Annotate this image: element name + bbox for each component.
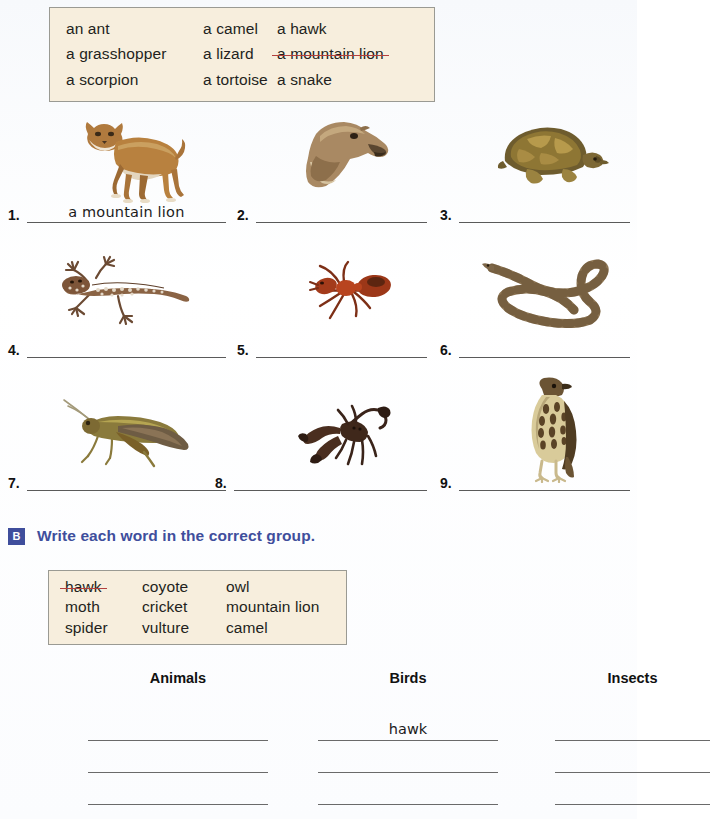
answer-line-5[interactable]: 5. <box>237 340 427 358</box>
word-bank-a-item: a grasshopper <box>66 42 203 68</box>
word-bank-a-item: a camel <box>203 16 277 42</box>
item-number: 1. <box>8 208 20 223</box>
picture-ant <box>300 258 396 328</box>
section-b-header: B Write each word in the correct group. <box>8 527 315 545</box>
answer-line-1[interactable]: 1. a mountain lion <box>8 205 226 223</box>
word-bank-a-item-struck: a mountain lion <box>277 42 434 68</box>
category-answer-line[interactable] <box>555 741 710 773</box>
item-number: 3. <box>440 208 452 223</box>
picture-snake <box>478 258 620 330</box>
word-bank-b: hawk coyote owl moth cricket mountain li… <box>48 570 347 645</box>
item-number: 5. <box>237 343 249 358</box>
category-answer-line[interactable] <box>88 741 268 773</box>
picture-lizard <box>52 252 192 330</box>
category-title: Insects <box>555 670 710 686</box>
category-answer-line[interactable] <box>318 741 498 773</box>
picture-camel <box>296 112 394 192</box>
category-answer-line[interactable] <box>88 709 268 741</box>
item-number: 7. <box>8 476 20 491</box>
category-answer-text: hawk <box>318 721 498 737</box>
answer-rule[interactable] <box>234 473 427 491</box>
word-bank-b-item: coyote <box>142 577 226 597</box>
answer-rule[interactable] <box>459 340 630 358</box>
category-answer-line[interactable]: hawk <box>318 709 498 741</box>
word-bank-a-item: a scorpion <box>66 67 203 93</box>
answer-line-2[interactable]: 2. <box>237 205 427 223</box>
answer-rule[interactable] <box>256 205 427 223</box>
word-bank-b-item: mountain lion <box>226 597 346 617</box>
answer-line-4[interactable]: 4. <box>8 340 226 358</box>
section-b-title: Write each word in the correct group. <box>37 527 315 545</box>
answer-text: a mountain lion <box>27 204 226 220</box>
answer-rule[interactable]: a mountain lion <box>27 205 226 223</box>
word-bank-a-item: a snake <box>277 67 434 93</box>
section-badge-b: B <box>8 528 25 545</box>
item-number: 6. <box>440 343 452 358</box>
answer-line-9[interactable]: 9. <box>440 473 630 491</box>
picture-hawk <box>512 375 596 483</box>
word-bank-b-item: moth <box>65 597 142 617</box>
answer-rule[interactable] <box>27 473 226 491</box>
picture-mountain-lion <box>58 112 186 204</box>
answer-rule[interactable] <box>256 340 427 358</box>
answer-line-7[interactable]: 7. <box>8 473 226 491</box>
item-number: 4. <box>8 343 20 358</box>
category-title: Birds <box>318 670 498 686</box>
item-number: 8. <box>215 476 227 491</box>
answer-line-6[interactable]: 6. <box>440 340 630 358</box>
word-bank-b-item: spider <box>65 618 142 638</box>
category-answer-line[interactable] <box>88 773 268 805</box>
picture-grasshopper <box>58 392 194 470</box>
answer-rule[interactable] <box>459 205 630 223</box>
answer-line-3[interactable]: 3. <box>440 205 630 223</box>
item-number: 9. <box>440 476 452 491</box>
word-bank-b-item: camel <box>226 618 346 638</box>
answer-line-8[interactable]: 8. <box>215 473 427 491</box>
word-bank-b-item: cricket <box>142 597 226 617</box>
category-answer-line[interactable] <box>318 773 498 805</box>
category-column-animals: Animals <box>88 670 268 805</box>
word-bank-b-item-struck: hawk <box>65 577 142 597</box>
category-column-birds: Birds hawk <box>318 670 498 805</box>
category-title: Animals <box>88 670 268 686</box>
word-bank-a-item: a lizard <box>203 42 277 68</box>
answer-rule[interactable] <box>27 340 226 358</box>
word-bank-b-item: owl <box>226 577 346 597</box>
word-bank-a: an ant a camel a hawk a grasshopper a li… <box>49 7 435 102</box>
answer-rule[interactable] <box>459 473 630 491</box>
category-answer-line[interactable] <box>555 773 710 805</box>
item-number: 2. <box>237 208 249 223</box>
category-answer-line[interactable] <box>555 709 710 741</box>
picture-tortoise <box>497 117 609 189</box>
category-column-insects: Insects <box>555 670 710 805</box>
word-bank-b-item: vulture <box>142 618 226 638</box>
word-bank-a-item: a tortoise <box>203 67 277 93</box>
word-bank-a-item: an ant <box>66 16 203 42</box>
word-bank-a-item: a hawk <box>277 16 434 42</box>
picture-scorpion <box>298 398 402 474</box>
